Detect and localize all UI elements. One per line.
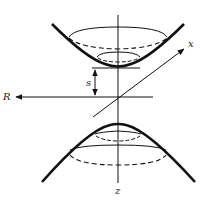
x-axis <box>93 49 184 117</box>
diagram-canvas: s R x z <box>0 0 202 200</box>
r-axis-label: R <box>2 91 11 102</box>
gap-label: s <box>86 77 91 88</box>
hyperboloid-diagram: s R x z <box>0 0 202 200</box>
x-axis-label: x <box>188 38 194 49</box>
z-axis-label: z <box>114 185 121 196</box>
